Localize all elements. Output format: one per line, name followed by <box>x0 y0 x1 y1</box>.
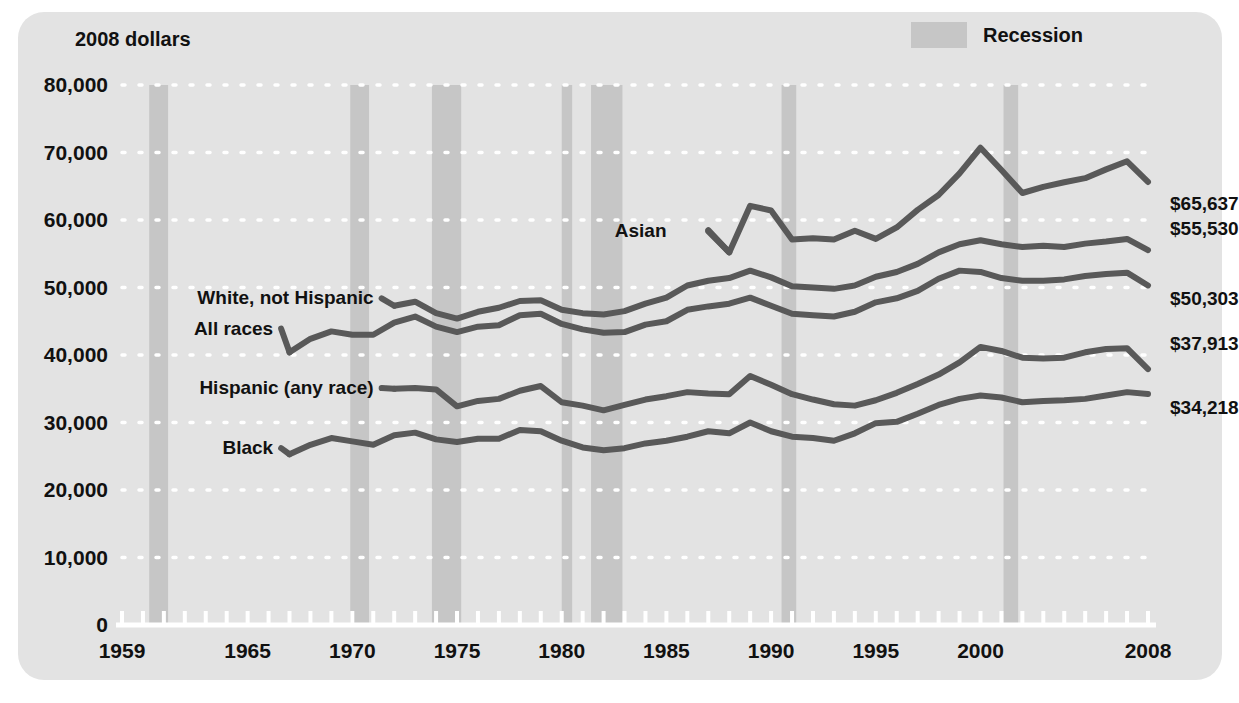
y-axis-tick-label: 40,000 <box>0 343 108 367</box>
series-end-value-label: $50,303 <box>1170 288 1239 310</box>
x-axis-tick-label: 1965 <box>224 639 271 663</box>
series-name-label: All races <box>194 318 273 340</box>
series-end-value-label: $55,530 <box>1170 218 1239 240</box>
series-line <box>290 271 1148 353</box>
x-axis-tick-label: 1980 <box>538 639 585 663</box>
series-name-label: Black <box>222 437 273 459</box>
y-axis-tick-label: 60,000 <box>0 208 108 232</box>
x-axis-tick-label: 1990 <box>748 639 795 663</box>
series-name-label: White, not Hispanic <box>197 287 373 309</box>
series-name-label: Asian <box>615 220 667 242</box>
series-end-value-label: $65,637 <box>1170 193 1239 215</box>
y-axis-tick-label: 80,000 <box>0 73 108 97</box>
y-axis-tick-label: 30,000 <box>0 411 108 435</box>
series-leader-line <box>281 448 289 454</box>
y-axis-tick-label: 10,000 <box>0 546 108 570</box>
y-axis-tick-label: 50,000 <box>0 276 108 300</box>
y-axis-tick-label: 20,000 <box>0 478 108 502</box>
series-leader-line <box>382 298 395 305</box>
series-leader-line <box>382 388 395 389</box>
y-axis-unit-label: 2008 dollars <box>75 28 191 51</box>
x-axis-tick-label: 2008 <box>1125 639 1172 663</box>
legend-swatch-recession <box>911 22 967 48</box>
series-line <box>708 148 1148 253</box>
x-axis-tick-label: 1995 <box>852 639 899 663</box>
x-axis-tick-label: 2000 <box>957 639 1004 663</box>
legend-label-recession: Recession <box>983 24 1083 47</box>
series-leader-line <box>281 329 289 353</box>
series-name-label: Hispanic (any race) <box>199 377 373 399</box>
y-axis-tick-label: 0 <box>0 613 108 637</box>
x-axis-tick-label: 1959 <box>99 639 146 663</box>
series-leader-line <box>708 231 729 252</box>
x-axis-tick-label: 1970 <box>329 639 376 663</box>
series-end-value-label: $37,913 <box>1170 333 1239 355</box>
x-axis-tick-label: 1985 <box>643 639 690 663</box>
x-axis-tick-label: 1975 <box>434 639 481 663</box>
y-axis-tick-label: 70,000 <box>0 141 108 165</box>
series-end-value-label: $34,218 <box>1170 397 1239 419</box>
